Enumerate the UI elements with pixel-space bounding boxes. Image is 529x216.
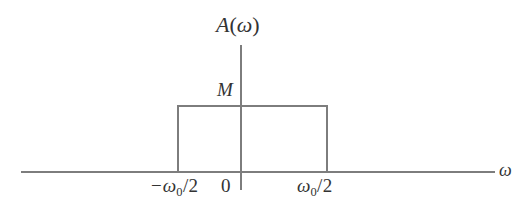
amplitude-label-m: M [217, 80, 233, 99]
omega-subscript: 0 [310, 185, 316, 199]
denominator: 2 [189, 175, 199, 196]
rectangular-pulse-figure: A(ω) M 0 −ω0/2 ω0/2 ω [0, 0, 529, 216]
vertical-axis-label: A(ω) [216, 14, 260, 36]
origin-tick-label: 0 [221, 176, 231, 195]
minus-sign: − [151, 175, 163, 196]
omega-subscript: 0 [176, 185, 182, 199]
horizontal-axis-label: ω [499, 161, 512, 179]
axis-label-open-paren: ( [229, 12, 236, 37]
right-cutoff-tick-label: ω0/2 [297, 176, 332, 198]
omega-symbol: ω [163, 175, 176, 196]
axis-label-function: A [216, 12, 229, 37]
left-cutoff-tick-label: −ω0/2 [151, 176, 198, 198]
axis-label-close-paren: ) [252, 12, 259, 37]
rectangular-pulse-shape [177, 105, 328, 172]
omega-symbol: ω [297, 175, 310, 196]
denominator: 2 [323, 175, 333, 196]
axis-label-variable: ω [237, 12, 253, 37]
